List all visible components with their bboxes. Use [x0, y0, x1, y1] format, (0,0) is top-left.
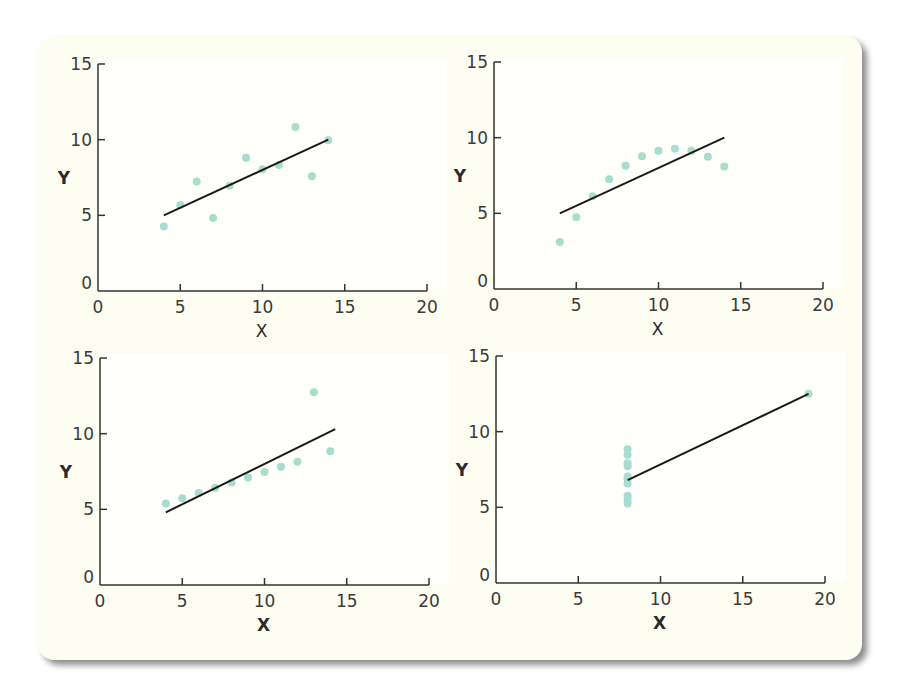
data-point — [277, 463, 285, 471]
data-point — [178, 494, 186, 502]
y-tick-label: 15 — [70, 54, 92, 74]
y-tick-label: 5 — [477, 203, 488, 223]
y-axis-label: Y — [453, 166, 467, 186]
plot-area — [496, 58, 843, 287]
data-point — [605, 175, 613, 183]
x-axis-label: X — [256, 321, 268, 341]
x-tick-label: 0 — [95, 591, 106, 611]
data-point — [638, 152, 646, 160]
scatter-plot-bottom-right: 05101505101520XY — [455, 346, 845, 633]
data-point — [209, 214, 217, 222]
y-tick-label: 10 — [468, 422, 490, 442]
y-tick-label: 0 — [83, 567, 94, 587]
x-tick-label: 15 — [732, 589, 754, 609]
data-point — [291, 123, 299, 131]
y-axis-label: Y — [57, 168, 71, 188]
x-axis-label: X — [257, 615, 270, 635]
y-tick-label: 0 — [81, 273, 92, 293]
data-point — [704, 153, 712, 161]
data-point — [242, 154, 250, 162]
y-tick-label: 15 — [468, 346, 490, 366]
data-point — [622, 162, 630, 170]
x-tick-label: 15 — [334, 297, 356, 317]
x-axis-label: X — [653, 613, 666, 633]
y-tick-label: 5 — [479, 497, 490, 517]
data-point — [720, 162, 728, 170]
x-tick-label: 0 — [489, 295, 500, 315]
x-tick-label: 10 — [252, 297, 274, 317]
x-axis-label: X — [652, 319, 664, 339]
x-tick-label: 15 — [730, 295, 752, 315]
data-point — [556, 238, 564, 246]
y-tick-label: 5 — [83, 499, 94, 519]
data-point — [624, 495, 632, 503]
plot-area — [100, 60, 447, 289]
y-tick-label: 10 — [70, 130, 92, 150]
y-tick-label: 5 — [81, 205, 92, 225]
y-tick-label: 0 — [477, 271, 488, 291]
data-point — [326, 447, 334, 455]
x-tick-label: 0 — [93, 297, 104, 317]
x-tick-label: 10 — [648, 295, 670, 315]
x-tick-label: 5 — [573, 589, 584, 609]
data-point — [244, 473, 252, 481]
data-point — [624, 451, 632, 459]
scatter-plot-bottom-left: 05101505101520XY — [59, 348, 449, 635]
data-point — [308, 172, 316, 180]
data-point — [193, 177, 201, 185]
x-tick-label: 5 — [571, 295, 582, 315]
anscombe-quartet-charts: 05101505101520XY 05101505101520XY 051015… — [0, 0, 915, 696]
y-tick-label: 10 — [72, 424, 94, 444]
data-point — [310, 388, 318, 396]
y-tick-label: 15 — [72, 348, 94, 368]
data-point — [572, 213, 580, 221]
x-tick-label: 20 — [416, 297, 438, 317]
scatter-plot-top-left: 05101505101520XY — [57, 54, 447, 341]
x-tick-label: 15 — [336, 591, 358, 611]
plot-area — [102, 354, 449, 583]
x-tick-label: 5 — [177, 591, 188, 611]
data-point — [624, 459, 632, 467]
y-axis-label: Y — [455, 460, 469, 480]
x-tick-label: 10 — [254, 591, 276, 611]
data-point — [293, 458, 301, 466]
y-tick-label: 10 — [466, 128, 488, 148]
x-tick-label: 0 — [491, 589, 502, 609]
data-point — [261, 468, 269, 476]
data-point — [671, 145, 679, 153]
x-tick-label: 20 — [418, 591, 440, 611]
data-point — [160, 223, 168, 231]
x-tick-label: 10 — [650, 589, 672, 609]
data-point — [162, 499, 170, 507]
y-tick-label: 0 — [479, 565, 490, 585]
x-tick-label: 20 — [814, 589, 836, 609]
y-tick-label: 15 — [466, 52, 488, 72]
x-tick-label: 20 — [812, 295, 834, 315]
x-tick-label: 5 — [175, 297, 186, 317]
data-point — [655, 147, 663, 155]
scatter-plot-top-right: 05101505101520XY — [453, 52, 843, 339]
plot-area — [498, 352, 845, 581]
y-axis-label: Y — [59, 462, 73, 482]
